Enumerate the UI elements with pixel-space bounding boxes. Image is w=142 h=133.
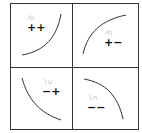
label-bottom-right: −− <box>87 102 105 113</box>
label-bottom-left: −+ <box>42 86 60 97</box>
curves <box>0 0 142 133</box>
label-top-right: +− <box>104 37 122 48</box>
label-top-left: ++ <box>27 22 45 33</box>
